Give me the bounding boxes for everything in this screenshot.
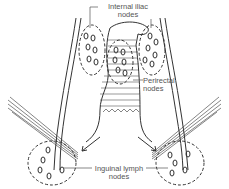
inguinal-nodes-left bbox=[28, 141, 76, 185]
internal-iliac-nodes-right bbox=[139, 25, 165, 75]
label-line: nodes bbox=[89, 173, 149, 181]
perirectal-nodes-label: Perirectal nodes bbox=[143, 77, 177, 93]
label-line: nodes bbox=[98, 11, 158, 19]
perirectal-nodes bbox=[107, 40, 133, 84]
inguinal-lymph-nodes-label: Inguinal lymph nodes bbox=[89, 165, 149, 181]
left-iliac-vessel bbox=[54, 18, 81, 170]
internal-iliac-nodes-label: Internal iliac nodes bbox=[98, 3, 158, 19]
label-line: nodes bbox=[143, 85, 177, 93]
internal-iliac-nodes-left bbox=[79, 25, 105, 75]
lymphatic-drainage-diagram: Internal iliac nodes Perirectal nodes In… bbox=[0, 0, 229, 189]
anatomy-illustration bbox=[0, 0, 229, 189]
left-inguinal-ligament bbox=[8, 97, 78, 160]
inguinal-nodes-right bbox=[156, 141, 204, 185]
drainage-arrows bbox=[82, 137, 156, 151]
